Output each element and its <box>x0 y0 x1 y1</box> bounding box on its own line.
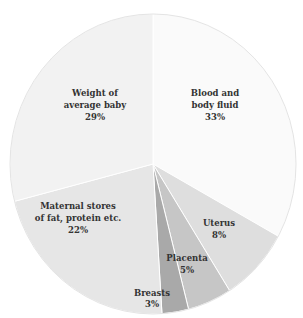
label-text: average baby <box>64 100 128 110</box>
label-value: 29% <box>85 112 105 122</box>
label-value: 22% <box>68 225 88 235</box>
label-text: Breasts <box>134 288 170 298</box>
label-text: of fat, protein etc. <box>35 213 122 224</box>
label-value: 33% <box>205 112 225 122</box>
pie-chart: Blood and body fluid 33% Uterus 8% Place… <box>0 0 303 318</box>
label-text: body fluid <box>192 100 239 110</box>
label-text: Maternal stores <box>40 201 116 211</box>
label-text: Blood and <box>191 88 239 98</box>
label-text: Placenta <box>166 253 208 263</box>
label-text: Weight of <box>71 88 119 98</box>
label-value: 8% <box>212 230 226 240</box>
label-value: 5% <box>180 265 194 275</box>
pie-slices <box>10 14 296 314</box>
label-value: 3% <box>145 299 159 309</box>
label-text: Uterus <box>203 218 235 228</box>
